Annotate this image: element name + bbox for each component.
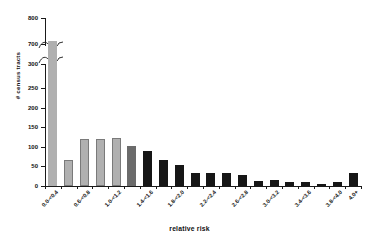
bar [112, 138, 121, 186]
x-tick-mark [345, 186, 346, 189]
x-tick-mark [235, 186, 236, 189]
x-tick-mark [61, 186, 62, 189]
bar [175, 165, 184, 186]
bar [349, 173, 358, 186]
x-tick-mark [266, 186, 267, 189]
bar [64, 160, 73, 186]
y-axis-title: # census tracts [14, 21, 21, 131]
bars-container [45, 14, 361, 186]
x-tick-mark [108, 186, 109, 189]
bar [159, 160, 168, 186]
x-tick-mark [329, 186, 330, 189]
y-tick-label: 50 [12, 163, 38, 169]
x-tick-mark [314, 186, 315, 189]
bar [222, 173, 231, 186]
bar [80, 139, 89, 186]
x-tick-mark [250, 186, 251, 189]
x-tick-mark [187, 186, 188, 189]
bar [127, 146, 136, 186]
y-tick-label: 200 [12, 105, 38, 111]
x-tick-mark [124, 186, 125, 189]
y-tick-label: 150 [12, 124, 38, 130]
y-tick-label: 700 [12, 41, 38, 47]
x-tick-mark [77, 186, 78, 189]
x-tick-mark [298, 186, 299, 189]
y-tick-label: 300 [12, 61, 38, 67]
bar [143, 151, 152, 186]
bar [238, 175, 247, 186]
bar [96, 139, 105, 186]
x-tick-mark [140, 186, 141, 189]
bar [191, 173, 200, 186]
y-tick-label: 0 [12, 183, 38, 189]
x-tick-mark [92, 186, 93, 189]
x-tick-mark [45, 186, 46, 189]
y-tick-label: 100 [12, 144, 38, 150]
x-tick-mark [171, 186, 172, 189]
x-tick-mark [282, 186, 283, 189]
x-tick-mark [361, 186, 362, 189]
x-axis-title: relative risk [0, 225, 379, 232]
bar [48, 41, 57, 186]
x-tick-mark [219, 186, 220, 189]
y-tick-label: 250 [12, 85, 38, 91]
bar-chart-figure: # census tracts 800 700 300 250 200 150 … [0, 0, 379, 241]
y-tick-label: 800 [12, 15, 38, 21]
x-tick-mark [203, 186, 204, 189]
x-tick-mark [156, 186, 157, 189]
bar [206, 173, 215, 186]
